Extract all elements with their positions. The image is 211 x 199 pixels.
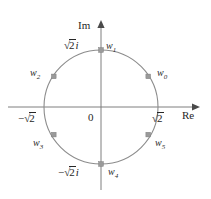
point-label-w0-subscript: 0 (164, 73, 168, 81)
point-label-w2-subscript: 2 (37, 73, 41, 81)
point-label-w1: w1 (106, 41, 116, 54)
marker-w4 (99, 162, 104, 167)
complex-plane-figure: Im Re 0 √2i −√2i √2 −√2 w0 w1 w2 w3 w4 (0, 0, 211, 199)
tick-positive-imaginary: √2i (64, 39, 79, 51)
point-label-w0: w0 (157, 68, 167, 81)
point-label-w4: w4 (108, 167, 118, 180)
point-label-w3: w3 (33, 138, 43, 151)
tick-negative-imaginary: −√2i (58, 166, 79, 178)
real-axis (8, 103, 200, 110)
point-label-w0-name: w (157, 67, 164, 78)
point-label-w4-name: w (108, 166, 115, 177)
marker-w1 (99, 48, 104, 53)
marker-w5 (146, 132, 151, 137)
point-label-w5: w5 (155, 138, 165, 151)
point-label-w2-name: w (30, 67, 37, 78)
point-label-w4-subscript: 4 (115, 172, 119, 180)
marker-w3 (52, 132, 57, 137)
real-axis-label: Re (182, 110, 194, 121)
tick-negative-imaginary-unit: i (76, 166, 79, 178)
tick-positive-real: √2 (152, 112, 164, 124)
tick-positive-real-value: 2 (157, 112, 164, 124)
figure-canvas (0, 0, 211, 199)
point-label-w2: w2 (30, 68, 40, 81)
marker-w2 (52, 74, 57, 79)
point-label-w3-subscript: 3 (40, 143, 44, 151)
tick-negative-real-value: 2 (29, 112, 36, 124)
point-label-w5-subscript: 5 (162, 143, 166, 151)
point-label-w1-subscript: 1 (113, 46, 117, 54)
point-label-w5-name: w (155, 137, 162, 148)
imaginary-axis-label: Im (78, 20, 90, 31)
tick-negative-real: −√2 (18, 112, 36, 124)
point-label-w3-name: w (33, 137, 40, 148)
point-label-w1-name: w (106, 40, 113, 51)
marker-w0 (146, 74, 151, 79)
origin-label: 0 (88, 112, 94, 123)
tick-positive-imaginary-unit: i (76, 39, 79, 51)
